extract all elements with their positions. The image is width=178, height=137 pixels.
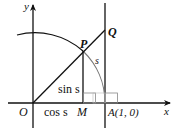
right-angle-marker-m [84, 93, 96, 103]
origin-label: O [19, 105, 28, 119]
sin-s-label: sin s [58, 82, 80, 96]
right-angle-marker-a [106, 93, 118, 103]
arc-s [83, 51, 105, 103]
point-p-label: P [80, 37, 88, 51]
unit-circle-arc [17, 33, 83, 51]
cos-s-label: cos s [44, 105, 68, 119]
point-a-label: A(1, 0) [107, 106, 139, 119]
x-axis-label: x [163, 105, 169, 117]
point-q-label: Q [108, 25, 117, 39]
unit-circle-diagram: y x O P Q M A(1, 0) s sin s cos s [0, 0, 178, 137]
right-angle-marker-a-left [93, 93, 105, 103]
y-axis-label: y [23, 0, 29, 12]
point-m-label: M [76, 105, 88, 119]
arc-length-label: s [95, 55, 99, 66]
